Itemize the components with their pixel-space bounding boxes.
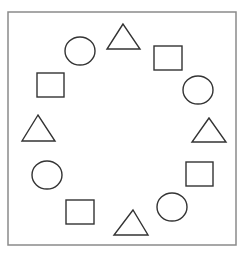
- circle-shape: [32, 161, 62, 189]
- triangle-shape: [107, 24, 140, 49]
- square-shape: [186, 162, 213, 186]
- triangle-shape: [114, 210, 148, 235]
- shapes-group: [22, 24, 226, 235]
- shape-ring-diagram: [0, 0, 246, 257]
- square-shape: [66, 200, 94, 224]
- square-shape: [37, 73, 64, 97]
- diagram-canvas: [0, 0, 246, 257]
- triangle-shape: [22, 115, 55, 141]
- square-shape: [154, 46, 182, 70]
- triangle-shape: [192, 118, 226, 142]
- circle-shape: [183, 76, 213, 104]
- circle-shape: [157, 193, 187, 221]
- circle-shape: [65, 37, 95, 65]
